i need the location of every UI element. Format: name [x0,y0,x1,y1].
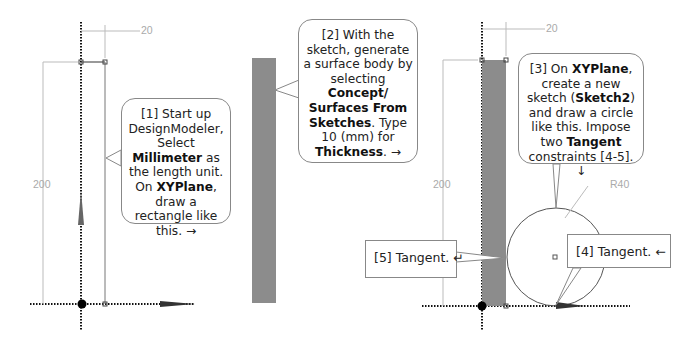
x-axis-arrow-icon [160,301,195,307]
callout-bold-text: XYPlane [572,62,629,76]
surface-body [252,58,276,303]
surface-body [482,60,506,306]
height-dimension-label: 200 [33,178,51,190]
callout-step-2: [2] With the sketch, generate a surface … [298,19,418,163]
callout-text: . → [383,145,401,159]
panel-2-surface [252,58,299,303]
origin-point [78,300,87,309]
y-axis-arrow-icon [78,190,84,225]
callout-tangent-5: [5] Tangent. ↵ [365,240,457,278]
callout-step-1: [1] Start up DesignModeler, Select Milli… [121,98,231,224]
callout-text: [1] Start up DesignModeler, Select [128,107,223,150]
callout-bold-text: Sketch2 [575,91,630,105]
callout-bold-text: Tangent [566,135,621,149]
callout-bold-text: XYPlane [156,180,213,194]
radius-dimension-label: R40 [610,178,629,190]
callout-text: [3] On [530,62,572,76]
callout-bold-text: Thickness [315,145,383,159]
height-dimension-label: 200 [433,178,451,190]
callout-step-3: [3] On XYPlane, create a new sketch (Ske… [518,53,644,164]
callout-text: [2] With the sketch, generate a surface … [303,28,412,86]
callout-bold-text: Millimeter [132,151,202,165]
width-dimension-label: 20 [141,24,153,36]
origin-point [478,302,487,311]
callout-tangent-4: [4] Tangent. ← [567,234,671,268]
tutorial-figure: 20 200 20 200 R40 [1] Start up DesignMod… [0,0,688,344]
width-dimension-label: 20 [546,22,558,34]
